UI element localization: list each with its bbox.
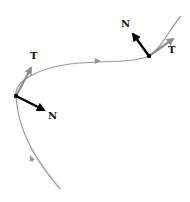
space-curve [16, 16, 181, 189]
curve-point-p1 [14, 94, 18, 98]
normal-label-p2: N [121, 18, 130, 29]
tangent-label-p1: T [30, 50, 38, 61]
tangent-vector-p1 [16, 68, 31, 96]
normal-vector-p1 [16, 96, 44, 110]
curve-point-p2 [147, 54, 151, 58]
curve-diagram: T N N T [0, 0, 190, 202]
normal-vector-p2 [133, 34, 149, 56]
curve-direction-arrow-lower [31, 158, 33, 162]
diagram-canvas: T N N T [0, 0, 190, 202]
normal-label-p1: N [48, 110, 57, 121]
tangent-label-p2: T [168, 44, 176, 55]
